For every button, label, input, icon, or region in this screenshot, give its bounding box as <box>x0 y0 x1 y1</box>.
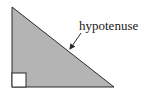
hypotenuse-arrow <box>70 33 81 49</box>
right-angle-marker <box>12 73 26 87</box>
hypotenuse-label: hypotenuse <box>79 19 138 33</box>
right-triangle-diagram <box>0 0 146 92</box>
